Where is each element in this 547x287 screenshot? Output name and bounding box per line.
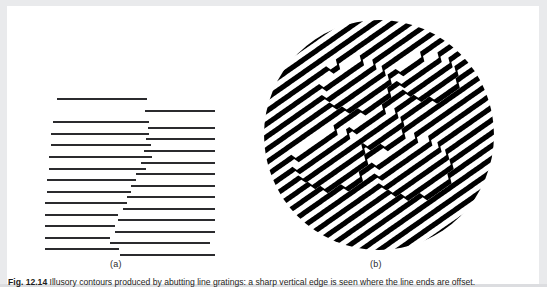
grating-stripe-41 [400,237,507,261]
grating-stripe-16 [257,22,448,163]
grating-line-right-5 [136,173,215,175]
grating-stripe-42 [407,245,508,261]
grating-line-left-3 [51,144,151,146]
circular-grating-svg [257,6,507,261]
panel-a-abutting-line-grating [45,98,215,250]
panel-a-label: (a) [110,259,122,269]
page-edge-right [539,0,547,287]
panel-b-circular-diagonal-grating [257,6,507,261]
grating-line-left-0 [57,98,147,100]
grating-line-right-6 [131,185,215,187]
grating-line-left-9 [45,214,118,216]
grating-line-right-2 [146,138,215,140]
grating-stripe-2 [257,6,364,42]
grating-line-left-8 [45,202,127,204]
grating-line-left-1 [53,121,149,123]
grating-line-right-10 [115,231,215,233]
grating-line-right-7 [127,196,215,198]
grating-line-left-11 [45,237,110,239]
grating-line-right-11 [110,242,210,244]
caption-number: Fig. 12.14 [8,277,47,287]
page-edge-left [0,0,7,287]
caption-text: Illusory contours produced by abutting l… [50,277,475,287]
grating-line-right-8 [123,208,215,210]
grating-stripe-0 [257,6,352,25]
grating-line-right-0 [145,110,215,112]
grating-line-left-6 [47,179,136,181]
stripe-group [257,6,507,261]
grating-line-right-3 [144,150,215,152]
grating-line-left-2 [51,133,149,135]
grating-line-right-1 [148,127,215,129]
grating-line-left-7 [47,191,131,193]
figure-page: (a) (b) Fig. 12.14 Illusory contours pro… [0,0,547,287]
grating-line-right-9 [118,219,215,221]
grating-line-left-10 [45,225,115,227]
grating-line-left-4 [49,156,152,158]
figure-caption: Fig. 12.14 Illusory contours produced by… [8,277,533,287]
grating-line-left-12 [45,248,119,250]
panel-b-label: (b) [370,259,382,269]
grating-stripe-40 [394,228,507,261]
grating-line-left-5 [49,168,146,170]
grating-line-right-4 [141,162,215,164]
figure-canvas: (a) (b) [7,6,539,272]
grating-line-right-12 [120,254,215,256]
